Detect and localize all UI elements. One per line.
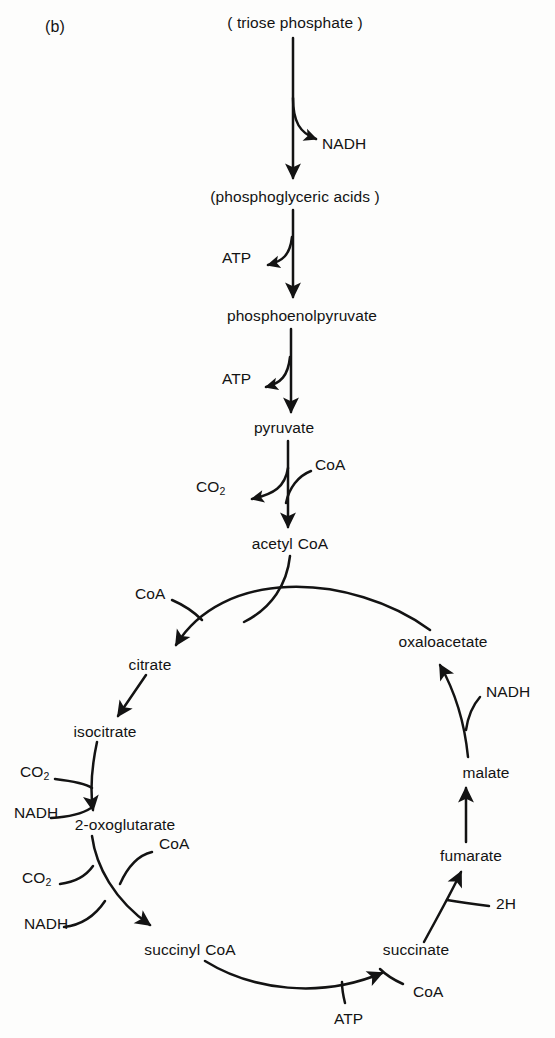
curve-co2-out-oxoglutarate — [60, 866, 93, 884]
arrow-oxaloacetate-to-citrate — [176, 587, 430, 645]
curve-2h-out-fumarate — [447, 900, 489, 906]
metabolite-2-oxoglutarate: 2-oxoglutarate — [75, 816, 176, 834]
metabolite-oxaloacetate: oxaloacetate — [398, 633, 487, 651]
cofactor-2h-fumarate: 2H — [496, 895, 516, 913]
cofactor-coa-citrate-synthase: CoA — [135, 585, 165, 603]
metabolite-isocitrate: isocitrate — [73, 723, 136, 741]
curve-nadh-out-oxoglutarate — [64, 901, 105, 927]
metabolite-triose-phosphate: ( triose phosphate ) — [227, 14, 363, 32]
cofactor-nadh-malate: NADH — [486, 683, 530, 701]
curve-coa-into-acetylcoa — [286, 471, 311, 503]
cofactor-nadh-glycolysis: NADH — [322, 135, 366, 153]
arrow-succinylcoa-to-succinate — [205, 961, 382, 988]
arrow-succinate-to-fumarate — [424, 872, 461, 942]
arrow-isocitrate-to-oxoglutarate — [91, 742, 97, 810]
figure-panel: (b) ( triose phosphate ) (phosphoglyceri… — [0, 0, 555, 1038]
metabolite-fumarate: fumarate — [440, 847, 502, 865]
curve-coa-out-citrate-synthase — [172, 600, 202, 620]
cofactor-co2-isocitrate: CO2 — [20, 763, 49, 782]
metabolite-phosphoenolpyruvate: phosphoenolpyruvate — [227, 307, 377, 325]
cofactor-co2-pyruvate: CO2 — [196, 478, 225, 497]
arrow-atp-branch-2 — [266, 357, 290, 387]
arrow-malate-to-oxaloacetate — [440, 665, 468, 757]
metabolite-phosphoglyceric-acids: (phosphoglyceric acids ) — [210, 188, 380, 206]
curve-nadh-out-malate — [466, 697, 480, 730]
metabolite-pyruvate: pyruvate — [254, 419, 314, 437]
curve-coa-into-oxoglutarate — [120, 852, 152, 884]
arrow-co2-branch — [252, 468, 288, 499]
curve-co2-out-isocitrate — [55, 779, 92, 788]
cofactor-nadh-isocitrate: NADH — [14, 804, 58, 822]
cofactor-co2-oxoglutarate: CO2 — [22, 869, 51, 888]
arrow-citrate-to-isocitrate — [118, 675, 146, 716]
cofactor-coa-pyruvate: CoA — [315, 456, 345, 474]
metabolite-succinate: succinate — [383, 941, 449, 959]
arrow-atp-branch-1 — [268, 237, 292, 265]
panel-label: (b) — [45, 18, 65, 36]
cofactor-atp-pep: ATP — [222, 370, 251, 388]
cofactor-atp-succinate: ATP — [334, 1010, 363, 1028]
cofactor-atp-pga: ATP — [222, 249, 251, 267]
metabolite-succinyl-coa: succinylCoA — [144, 941, 235, 959]
curve-coa-out-succinate — [380, 969, 403, 984]
metabolite-acetyl-coa: acetylCoA — [252, 535, 329, 553]
cofactor-coa-succinate: CoA — [413, 983, 443, 1001]
pathway-diagram — [0, 0, 555, 1038]
metabolite-malate: malate — [462, 764, 509, 782]
metabolite-citrate: citrate — [129, 656, 172, 674]
cofactor-coa-oxoglutarate: CoA — [159, 835, 189, 853]
cofactor-nadh-oxoglutarate: NADH — [24, 915, 68, 933]
arrow-nadh-branch-1 — [293, 98, 316, 139]
